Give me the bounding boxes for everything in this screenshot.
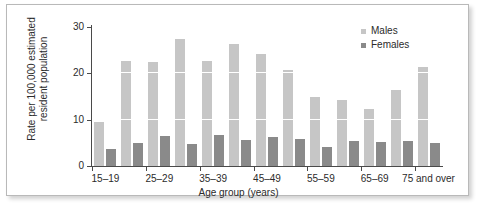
- legend-swatch-males-icon: [361, 29, 366, 34]
- bar-male-35–39: [202, 61, 212, 166]
- legend-swatch-females-icon: [361, 43, 366, 48]
- bar-male-55–59: [310, 97, 320, 166]
- bar-male-45–49: [256, 54, 266, 166]
- x-tick-label-75-and-over: 75 and over: [399, 173, 459, 184]
- x-tick-12: [415, 167, 416, 171]
- bar-female-15–19: [106, 149, 116, 166]
- x-tick-0: [92, 167, 93, 171]
- x-tick-2: [146, 167, 147, 171]
- bar-female-40–44: [241, 140, 251, 166]
- bar-male-20–24: [121, 61, 131, 166]
- bar-male-75-and-over: [418, 67, 428, 166]
- bar-female-55–59: [322, 147, 332, 166]
- bar-male-60–64: [337, 100, 347, 166]
- bar-female-75-and-over: [430, 143, 440, 166]
- gridline-20: [92, 72, 442, 73]
- bar-male-15–19: [94, 122, 104, 166]
- legend-label-males: Males: [371, 26, 398, 36]
- x-tick-label-55–59: 55–59: [291, 173, 351, 184]
- bar-male-40–44: [229, 44, 239, 166]
- x-tick-label-35–39: 35–39: [183, 173, 243, 184]
- y-axis-tick-group: 3020100: [7, 5, 92, 197]
- bar-female-50–54: [295, 139, 305, 166]
- y-tick-label-30: 30: [44, 22, 84, 32]
- x-axis-title: Age group (years): [7, 187, 470, 198]
- bar-female-45–49: [268, 137, 278, 166]
- bar-female-65–69: [376, 142, 386, 166]
- x-tick-4: [200, 167, 201, 171]
- x-tick-label-65–69: 65–69: [345, 173, 405, 184]
- bar-female-25–29: [160, 136, 170, 166]
- bar-male-70–74: [391, 90, 401, 166]
- bar-female-30–34: [187, 144, 197, 166]
- bar-male-65–69: [364, 109, 374, 166]
- chart-legend: Males Females: [361, 25, 409, 53]
- x-tick-10: [361, 167, 362, 171]
- bar-male-30–34: [175, 39, 185, 166]
- x-tick-label-25–29: 25–29: [129, 173, 189, 184]
- bar-female-70–74: [403, 141, 413, 166]
- x-axis-line: [91, 166, 443, 167]
- legend-item-females: Females: [361, 39, 409, 51]
- legend-item-males: Males: [361, 25, 409, 37]
- x-tick-8: [307, 167, 308, 171]
- y-tick-label-20: 20: [44, 68, 84, 78]
- bar-male-25–29: [148, 62, 158, 166]
- x-tick-label-15–19: 15–19: [75, 173, 135, 184]
- bar-female-60–64: [349, 141, 359, 166]
- x-tick-6: [254, 167, 255, 171]
- x-tick-label-45–49: 45–49: [237, 173, 297, 184]
- legend-label-females: Females: [371, 40, 409, 50]
- bar-female-35–39: [214, 135, 224, 167]
- bar-female-20–24: [133, 143, 143, 166]
- y-tick-label-0: 0: [44, 161, 84, 171]
- gridline-10: [92, 119, 442, 120]
- chart-figure: Rate per 100,000 estimated resident popu…: [6, 4, 469, 196]
- y-tick-label-10: 10: [44, 115, 84, 125]
